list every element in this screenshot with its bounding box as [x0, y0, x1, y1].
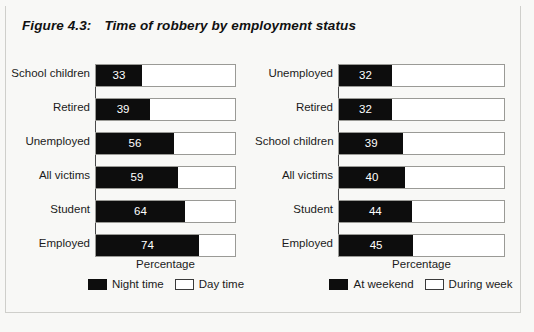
bar-value-label: 32	[339, 99, 392, 120]
bar-track: 59	[95, 166, 236, 189]
legend-swatch-dark-icon	[329, 279, 348, 290]
category-label: All victims	[6, 169, 90, 181]
bar-row: Retired32	[255, 98, 505, 121]
category-label: Student	[255, 203, 333, 215]
bar-fill-dark: 40	[339, 167, 405, 188]
bar-value-label: 59	[96, 167, 178, 188]
bar-row: All victims59	[6, 166, 238, 189]
bar-track: 39	[95, 98, 236, 121]
bar-track: 33	[95, 64, 236, 87]
category-label: School children	[6, 67, 90, 79]
bar-value-label: 56	[96, 133, 174, 154]
legend-label: Night time	[112, 278, 164, 290]
legend-label: Day time	[199, 278, 244, 290]
category-label: Employed	[255, 237, 333, 249]
bar-track: 32	[338, 64, 505, 87]
bar-fill-dark: 56	[96, 133, 174, 154]
legend-item: At weekend	[329, 278, 413, 290]
category-label: Student	[6, 203, 90, 215]
bar-row: Retired39	[6, 98, 238, 121]
bar-fill-dark: 74	[96, 235, 199, 256]
frame-bottom-border	[5, 312, 521, 313]
figure-title-text: Time of robbery by employment status	[104, 18, 356, 33]
bar-fill-dark: 64	[96, 201, 185, 222]
y-axis-line-left	[95, 64, 96, 257]
bar-fill-dark: 44	[339, 201, 412, 222]
bar-fill-dark: 32	[339, 99, 392, 120]
category-label: Employed	[6, 237, 90, 249]
legend-item: Day time	[175, 278, 244, 290]
figure-container: Figure 4.3:Time of robbery by employment…	[0, 0, 534, 332]
bar-fill-dark: 33	[96, 65, 142, 86]
legend-label: During week	[449, 278, 513, 290]
bar-row: Student44	[255, 200, 505, 223]
bar-track: 44	[338, 200, 505, 223]
bar-track: 45	[338, 234, 505, 257]
x-axis-title-left: Percentage	[95, 258, 236, 270]
category-label: All victims	[255, 169, 333, 181]
chart-panel-left: School children33Retired39Unemployed56Al…	[6, 60, 261, 305]
bar-fill-dark: 39	[339, 133, 403, 154]
bar-row: Employed74	[6, 234, 238, 257]
bar-fill-dark: 32	[339, 65, 392, 86]
bar-track: 39	[338, 132, 505, 155]
bar-fill-dark: 39	[96, 99, 150, 120]
bar-fill-dark: 59	[96, 167, 178, 188]
bar-row: All victims40	[255, 166, 505, 189]
bar-value-label: 33	[96, 65, 142, 86]
y-axis-line-right	[338, 64, 339, 257]
bar-fill-dark: 45	[339, 235, 413, 256]
legend-swatch-light-icon	[175, 279, 194, 290]
bar-value-label: 45	[339, 235, 413, 256]
bar-row: Unemployed56	[6, 132, 238, 155]
legend-swatch-dark-icon	[88, 279, 107, 290]
bar-track: 64	[95, 200, 236, 223]
bar-value-label: 44	[339, 201, 412, 222]
category-label: Retired	[6, 101, 90, 113]
bar-value-label: 39	[339, 133, 403, 154]
bar-row: Unemployed32	[255, 64, 505, 87]
figure-number: Figure 4.3:	[22, 18, 91, 33]
bar-track: 74	[95, 234, 236, 257]
category-label: Retired	[255, 101, 333, 113]
legend-label: At weekend	[353, 278, 413, 290]
bar-track: 40	[338, 166, 505, 189]
bar-row: School children39	[255, 132, 505, 155]
legend-item: During week	[425, 278, 513, 290]
bar-track: 56	[95, 132, 236, 155]
bar-value-label: 40	[339, 167, 405, 188]
legend-swatch-light-icon	[425, 279, 444, 290]
category-label: Unemployed	[255, 67, 333, 79]
bar-row: School children33	[6, 64, 238, 87]
bar-value-label: 39	[96, 99, 150, 120]
bar-value-label: 32	[339, 65, 392, 86]
bar-row: Student64	[6, 200, 238, 223]
legend-item: Night time	[88, 278, 164, 290]
bar-value-label: 64	[96, 201, 185, 222]
x-axis-title-right: Percentage	[338, 258, 505, 270]
bar-value-label: 74	[96, 235, 199, 256]
category-label: Unemployed	[6, 135, 90, 147]
legend-right: At weekendDuring week	[315, 278, 527, 290]
bar-track: 32	[338, 98, 505, 121]
bar-row: Employed45	[255, 234, 505, 257]
figure-title: Figure 4.3:Time of robbery by employment…	[22, 18, 356, 33]
category-label: School children	[255, 135, 333, 147]
legend-left: Night timeDay time	[66, 278, 266, 290]
chart-panel-right: Unemployed32Retired32School children39Al…	[255, 60, 527, 305]
